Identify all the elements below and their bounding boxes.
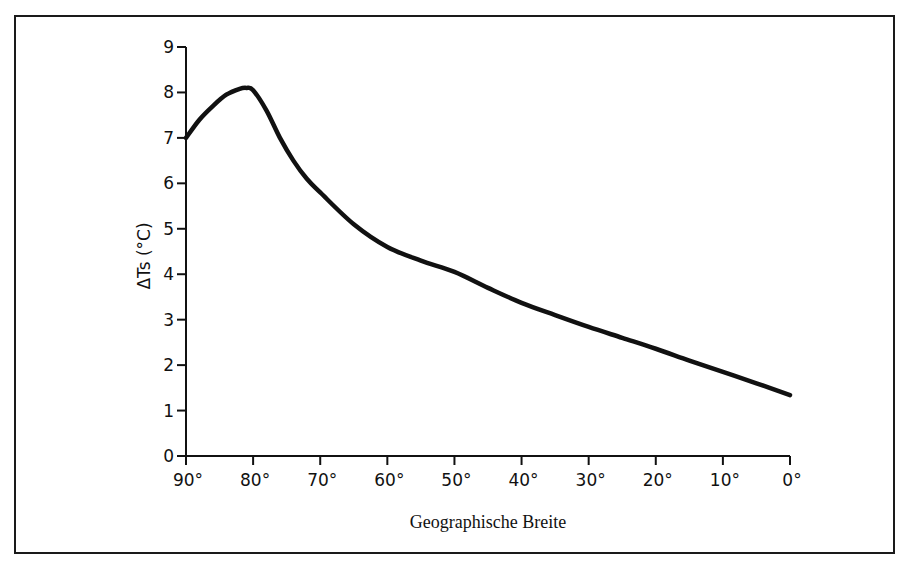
x-tick-label: 0° [782, 470, 801, 490]
x-tick-label: 50° [441, 470, 471, 490]
y-tick-label: 2 [163, 355, 174, 375]
data-line [186, 88, 790, 395]
x-tick-label: 80° [240, 470, 270, 490]
y-tick-label: 6 [163, 173, 174, 193]
y-tick-label: 7 [163, 128, 174, 148]
y-tick-label: 9 [163, 37, 174, 57]
y-tick-label: 3 [163, 310, 174, 330]
x-axis: 90°80°70°60°50°40°30°20°10°0° [173, 456, 802, 490]
x-axis-title: Geographische Breite [410, 512, 566, 532]
y-tick-label: 5 [163, 219, 174, 239]
y-axis: 0123456789 [163, 37, 186, 466]
y-axis-title: ΔTs (°C) [134, 222, 154, 289]
x-tick-label: 20° [643, 470, 673, 490]
x-tick-label: 30° [576, 470, 606, 490]
x-tick-label: 70° [307, 470, 337, 490]
y-tick-label: 0 [163, 446, 174, 466]
x-tick-label: 40° [508, 470, 538, 490]
line-chart: 0123456789 90°80°70°60°50°40°30°20°10°0°… [0, 0, 908, 571]
y-tick-label: 1 [163, 401, 174, 421]
y-tick-label: 4 [163, 264, 174, 284]
x-tick-label: 90° [173, 470, 203, 490]
y-tick-label: 8 [163, 82, 174, 102]
x-tick-label: 60° [374, 470, 404, 490]
x-tick-label: 10° [710, 470, 740, 490]
